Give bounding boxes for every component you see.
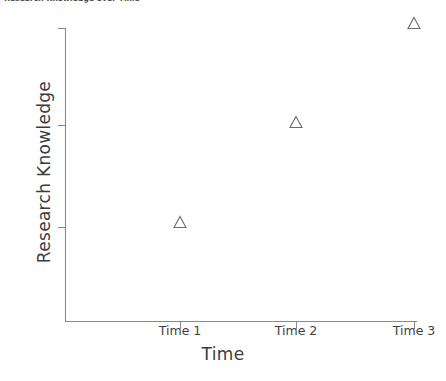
y-axis-title: Research Knowledge <box>34 42 54 302</box>
x-tick-label-time-2: Time 2 <box>251 323 341 338</box>
x-axis-title: Time <box>0 344 446 364</box>
data-point-marker-2 <box>290 117 302 128</box>
data-point-marker-1 <box>174 217 186 228</box>
x-tick-label-time-1: Time 1 <box>135 323 225 338</box>
data-point-marker-3 <box>408 18 420 29</box>
figure-container: Research Knowledge over Time Time 1 Time… <box>0 0 446 381</box>
x-tick-label-time-3: Time 3 <box>369 323 446 338</box>
